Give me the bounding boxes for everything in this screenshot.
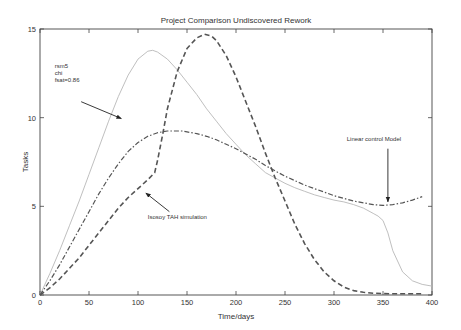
y-axis: 051015 — [28, 25, 432, 300]
annotation-text: rsm5chifsat=0.86 — [55, 63, 81, 83]
x-tick-label: 0 — [38, 298, 42, 307]
x-tick-label: 150 — [181, 298, 194, 307]
y-tick-label: 15 — [28, 25, 36, 34]
annotation-text: Linear control Model — [347, 136, 401, 142]
x-axis: 050100150200250300350400 — [38, 29, 438, 307]
series-line — [40, 131, 422, 295]
x-tick-label: 100 — [132, 298, 145, 307]
x-tick-label: 200 — [230, 298, 243, 307]
series-line — [40, 50, 432, 295]
x-tick-label: 400 — [426, 298, 439, 307]
y-axis-label: Tasks — [21, 152, 30, 172]
x-tick-label: 350 — [377, 298, 390, 307]
x-tick-label: 250 — [279, 298, 292, 307]
arrow-icon — [146, 193, 170, 212]
chart-figure: Project Comparison Undiscovered Rework 0… — [0, 0, 461, 330]
annotation-text: Isosoy TAH simulation — [148, 214, 207, 220]
x-tick-label: 50 — [85, 298, 93, 307]
annotations: rsm5chifsat=0.86Isosoy TAH simulationLin… — [55, 63, 401, 220]
chart-title: Project Comparison Undiscovered Rework — [161, 16, 313, 25]
x-axis-label: Time/days — [218, 312, 255, 321]
data-series — [40, 34, 432, 295]
y-tick-label: 10 — [28, 114, 36, 123]
series-line — [40, 34, 422, 295]
y-tick-label: 0 — [32, 291, 36, 300]
x-tick-label: 300 — [328, 298, 341, 307]
plot-area — [40, 29, 432, 295]
y-tick-label: 5 — [32, 202, 36, 211]
